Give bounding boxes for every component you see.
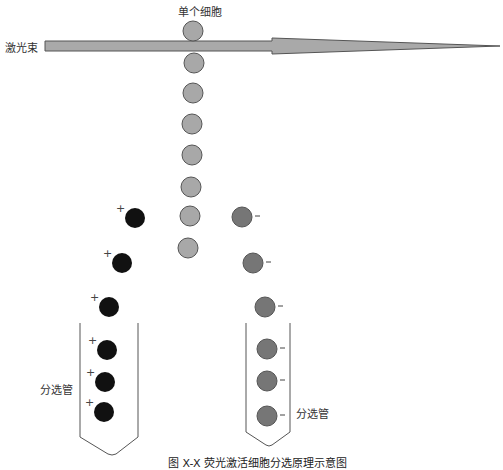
plus-sign: + <box>85 396 94 409</box>
plus-sign: + <box>103 247 112 260</box>
unsorted-cell <box>183 83 203 103</box>
laser-beam-label: 激光束 <box>5 39 38 55</box>
unsorted-cell <box>182 114 202 134</box>
negative-cell <box>257 371 277 391</box>
negative-cell <box>257 339 277 359</box>
unsorted-cell <box>182 145 202 165</box>
negative-cells <box>232 207 285 426</box>
positive-cells: ++++++ <box>85 202 145 422</box>
positive-cell <box>95 372 115 392</box>
unsorted-cell <box>181 177 201 197</box>
sorting-tube-right-label: 分选管 <box>296 405 329 421</box>
positive-cell <box>99 297 119 317</box>
positive-cell <box>125 208 145 228</box>
positive-cell <box>94 402 114 422</box>
unsorted-cell <box>184 53 204 73</box>
unsorted-cell <box>178 238 198 258</box>
plus-sign: + <box>116 202 125 215</box>
negative-cell <box>257 406 277 426</box>
laser-beam-arrow <box>45 38 500 54</box>
plus-sign: + <box>88 334 97 347</box>
sorting-tube-left-label: 分选管 <box>40 381 73 397</box>
positive-cell <box>97 340 117 360</box>
single-cell-label: 单个细胞 <box>178 3 222 19</box>
negative-cell <box>232 207 252 227</box>
unsorted-cell <box>183 21 203 41</box>
negative-cell <box>255 297 275 317</box>
plus-sign: + <box>90 291 99 304</box>
plus-sign: + <box>86 366 95 379</box>
figure-caption: 图 X-X 荧光激活细胞分选原理示意图 <box>168 454 347 470</box>
positive-cell <box>112 253 132 273</box>
negative-cell <box>243 253 263 273</box>
unsorted-cells <box>178 21 204 258</box>
unsorted-cell <box>180 206 200 226</box>
